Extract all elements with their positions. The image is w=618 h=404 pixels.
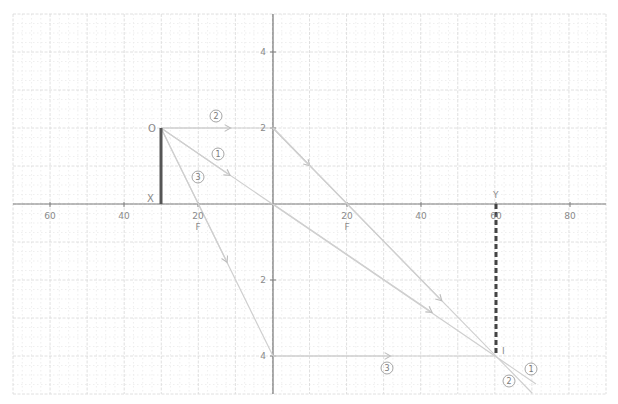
diagram-canvas: 60402020406080 4224 FF O X Y I 123312 bbox=[0, 0, 618, 404]
svg-text:2: 2 bbox=[506, 377, 511, 386]
image-tip-label: I bbox=[502, 346, 505, 356]
svg-text:1: 1 bbox=[528, 365, 533, 374]
focal-point-label: F bbox=[195, 222, 200, 232]
x-tick-label: 80 bbox=[564, 211, 576, 221]
ray-number-label: 2 bbox=[503, 375, 515, 387]
x-tick-label: 40 bbox=[415, 211, 427, 221]
ray-number-label: 3 bbox=[192, 171, 204, 183]
x-tick-label: 20 bbox=[192, 211, 204, 221]
y-tick-label: 2 bbox=[260, 275, 266, 285]
focal-point-label: F bbox=[344, 222, 349, 232]
y-tick-label: 2 bbox=[260, 123, 266, 133]
ray-diagram: 60402020406080 4224 FF O X Y I 123312 bbox=[0, 0, 618, 404]
ray-number-label: 1 bbox=[525, 363, 537, 375]
svg-text:3: 3 bbox=[195, 173, 200, 182]
rays bbox=[161, 128, 536, 393]
y-tick-label: 4 bbox=[260, 351, 266, 361]
svg-text:3: 3 bbox=[384, 364, 389, 373]
x-tick-labels: 60402020406080 bbox=[44, 211, 576, 221]
x-tick-label: 60 bbox=[44, 211, 56, 221]
ray-number-label: 1 bbox=[212, 148, 224, 160]
y-tick-label: 4 bbox=[260, 47, 266, 57]
object-top-label: O bbox=[148, 123, 156, 134]
object-base-label: X bbox=[147, 193, 154, 204]
x-tick-label: 60 bbox=[490, 211, 502, 221]
x-tick-label: 40 bbox=[118, 211, 130, 221]
ray-number-label: 2 bbox=[210, 110, 222, 122]
image-base-label: Y bbox=[492, 190, 499, 200]
x-tick-label: 20 bbox=[341, 211, 353, 221]
svg-text:1: 1 bbox=[215, 150, 220, 159]
svg-text:2: 2 bbox=[213, 112, 218, 121]
ray-number-label: 3 bbox=[381, 362, 393, 374]
